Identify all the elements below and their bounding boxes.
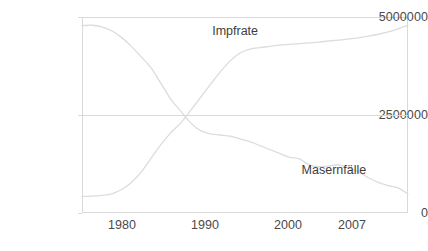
x-axis-tick-label-2007: 2007 (338, 218, 366, 232)
series-annotation-masernfaelle: Masernfälle (302, 163, 367, 177)
y-axis-tick-mark-bottom (78, 213, 82, 214)
series-annotation-impfrate: Impfrate (212, 24, 258, 38)
measles-vaccination-line-chart: 5000000 2500000 0 1980 1990 2000 2007 Im… (0, 0, 428, 251)
x-axis-tick-label-1990: 1990 (191, 218, 219, 232)
series-layer (82, 17, 408, 213)
x-axis-tick-label-2000: 2000 (274, 218, 302, 232)
x-axis-tick-label-1980: 1980 (108, 218, 136, 232)
